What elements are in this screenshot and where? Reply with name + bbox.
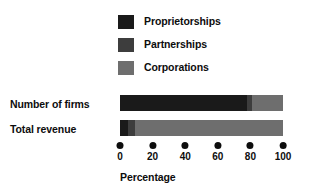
bar-segment-corporations [135, 120, 283, 136]
x-axis-tick-label: 40 [180, 152, 191, 162]
x-axis-tick: 60 [212, 142, 223, 162]
bar-segment-proprietorships [120, 95, 247, 111]
tick-dot-icon [117, 142, 124, 149]
x-axis-title: Percentage [120, 172, 176, 183]
x-axis: 020406080100 [120, 142, 283, 166]
bar-segment-proprietorships [120, 120, 128, 136]
x-axis-tick-label: 100 [275, 152, 292, 162]
tick-dot-icon [149, 142, 156, 149]
tick-dot-icon [214, 142, 221, 149]
tick-dot-icon [247, 142, 254, 149]
tick-dot-icon [182, 142, 189, 149]
plot-area: Number of firms Total revenue 0204060801… [0, 0, 317, 194]
x-axis-tick: 40 [180, 142, 191, 162]
x-axis-tick-label: 80 [245, 152, 256, 162]
x-axis-tick: 20 [147, 142, 158, 162]
x-axis-tick-label: 20 [147, 152, 158, 162]
bar-segment-corporations [252, 95, 283, 111]
x-axis-tick-label: 0 [117, 152, 124, 162]
row-label-total-revenue: Total revenue [10, 124, 76, 135]
x-axis-tick: 80 [245, 142, 256, 162]
x-axis-tick: 0 [117, 142, 124, 162]
x-axis-tick: 100 [275, 142, 292, 162]
bar-total-revenue [120, 120, 283, 136]
stacked-bar-chart: Proprietorships Partnerships Corporation… [0, 0, 317, 194]
tick-dot-icon [280, 142, 287, 149]
x-axis-tick-label: 60 [212, 152, 223, 162]
bar-number-of-firms [120, 95, 283, 111]
row-label-number-of-firms: Number of firms [10, 99, 90, 110]
